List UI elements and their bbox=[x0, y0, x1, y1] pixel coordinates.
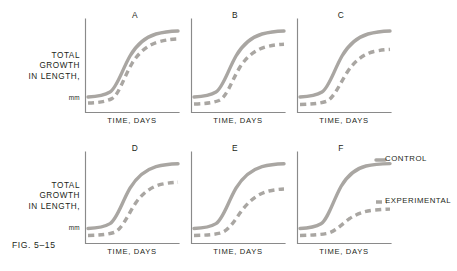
x-axis-label-b: TIME, DAYS bbox=[190, 116, 286, 125]
panel-d-control-curve bbox=[88, 164, 178, 229]
legend-control-label: CONTROL bbox=[385, 154, 427, 163]
x-axis-label-f: TIME, DAYS bbox=[296, 247, 392, 256]
panel-f-experimental-curve bbox=[300, 209, 390, 235]
figure-caption: FIG. 5–15 bbox=[12, 240, 56, 250]
panel-c-control-curve bbox=[300, 31, 390, 97]
panel-d-plot bbox=[84, 151, 180, 245]
figure-5-15: TOTAL GROWTH IN LENGTH, mm A TIME, DAYS … bbox=[0, 0, 457, 271]
panel-a-plot bbox=[84, 18, 180, 114]
panel-e-control-curve bbox=[194, 164, 284, 229]
x-axis-label-d: TIME, DAYS bbox=[84, 247, 180, 256]
y-axis-label-row1: TOTAL GROWTH IN LENGTH, mm bbox=[14, 40, 80, 123]
y-axis-label-row2-lines: TOTAL GROWTH IN LENGTH, bbox=[29, 181, 80, 211]
x-axis-label-a: TIME, DAYS bbox=[84, 116, 180, 125]
panel-c-plot bbox=[296, 18, 392, 114]
legend-experimental-label: EXPERIMENTAL bbox=[385, 196, 451, 205]
panel-b-control-curve bbox=[194, 31, 284, 97]
y-axis-unit-row2: mm bbox=[14, 223, 80, 232]
panel-b-plot bbox=[190, 18, 286, 114]
panel-e-plot bbox=[190, 151, 286, 245]
y-axis-unit-row1: mm bbox=[14, 93, 80, 102]
y-axis-label-row1-lines: TOTAL GROWTH IN LENGTH, bbox=[29, 51, 80, 81]
x-axis-label-e: TIME, DAYS bbox=[190, 247, 286, 256]
x-axis-label-c: TIME, DAYS bbox=[296, 116, 392, 125]
